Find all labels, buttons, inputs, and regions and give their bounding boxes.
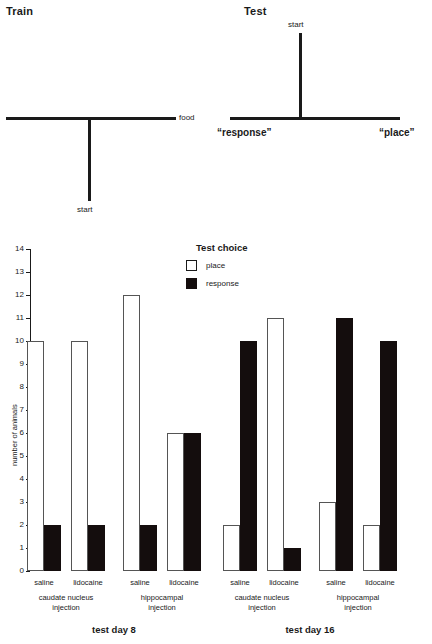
- y-axis-tick-label: 5: [4, 451, 24, 460]
- group-label-line1: caudate nucleus: [11, 593, 121, 603]
- y-axis-tick: [26, 295, 30, 296]
- bar-place: [167, 433, 184, 571]
- y-axis-tick-label: 11: [4, 313, 24, 322]
- bar-response: [140, 525, 157, 571]
- y-axis-tick-label: 1: [4, 543, 24, 552]
- group-label: hippocampalinjection: [107, 593, 217, 613]
- group-label: hippocampalinjection: [303, 593, 413, 613]
- bar-response: [240, 341, 257, 571]
- legend-item-response: response: [186, 278, 248, 289]
- bar-place: [27, 341, 44, 571]
- legend-label-response: response: [206, 279, 239, 288]
- category-label: lidocaine: [58, 578, 118, 587]
- legend-title: Test choice: [196, 242, 248, 253]
- y-axis-tick-label: 6: [4, 428, 24, 437]
- group-label: caudate nucleusinjection: [11, 593, 121, 613]
- bar-chart: number of animals 01234567891011121314 s…: [0, 236, 432, 644]
- day-label: test day 16: [250, 624, 370, 635]
- category-label: lidocaine: [254, 578, 314, 587]
- train-maze-horizontal-arm: [6, 117, 176, 120]
- legend: Test choice place response: [186, 242, 248, 289]
- bar-place: [223, 525, 240, 571]
- bar-response: [336, 318, 353, 571]
- y-axis-tick-label: 14: [4, 244, 24, 253]
- y-axis-tick-label: 9: [4, 359, 24, 368]
- bar-place: [319, 502, 336, 571]
- group-label-line2: injection: [107, 603, 217, 613]
- train-maze-diagram: Train food start: [0, 0, 216, 230]
- train-maze-start-label: start: [77, 205, 93, 214]
- group-label-line1: caudate nucleus: [207, 593, 317, 603]
- group-label-line2: injection: [207, 603, 317, 613]
- group-label-line1: hippocampal: [107, 593, 217, 603]
- group-label-line2: injection: [11, 603, 121, 613]
- bar-response: [88, 525, 105, 571]
- legend-swatch-response-icon: [186, 278, 197, 289]
- y-axis-tick: [26, 318, 30, 319]
- day-label: test day 8: [54, 624, 174, 635]
- group-label-line2: injection: [303, 603, 413, 613]
- bar-response: [380, 341, 397, 571]
- train-maze-title: Train: [6, 5, 33, 17]
- train-maze-food-label: food: [179, 113, 195, 122]
- bar-response: [44, 525, 61, 571]
- y-axis-tick-label: 4: [4, 474, 24, 483]
- y-axis-tick-label: 8: [4, 382, 24, 391]
- bar-response: [284, 548, 301, 571]
- y-axis-tick: [26, 272, 30, 273]
- group-label: caudate nucleusinjection: [207, 593, 317, 613]
- test-maze-stem: [299, 33, 302, 119]
- y-axis-tick-label: 3: [4, 497, 24, 506]
- train-maze-stem: [88, 117, 91, 201]
- y-axis-tick: [26, 249, 30, 250]
- group-label-line1: hippocampal: [303, 593, 413, 603]
- test-maze-response-label: “response”: [217, 127, 271, 138]
- test-maze-horizontal-arm: [230, 117, 400, 120]
- category-label: lidocaine: [350, 578, 410, 587]
- y-axis-tick-label: 7: [4, 405, 24, 414]
- test-maze-diagram: Test start “response” “place”: [216, 0, 432, 230]
- legend-label-place: place: [206, 261, 225, 270]
- bar-place: [267, 318, 284, 571]
- test-maze-title: Test: [244, 5, 267, 17]
- y-axis-tick-label: 10: [4, 336, 24, 345]
- bar-place: [71, 341, 88, 571]
- test-maze-start-label: start: [288, 20, 304, 29]
- y-axis-tick: [26, 571, 30, 572]
- category-label: lidocaine: [154, 578, 214, 587]
- bar-place: [123, 295, 140, 571]
- bar-response: [184, 433, 201, 571]
- legend-item-place: place: [186, 260, 248, 271]
- bar-place: [363, 525, 380, 571]
- legend-swatch-place-icon: [186, 260, 197, 271]
- y-axis-tick-label: 0: [4, 566, 24, 575]
- y-axis-tick-label: 12: [4, 290, 24, 299]
- y-axis-tick-label: 2: [4, 520, 24, 529]
- test-maze-place-label: “place”: [379, 127, 415, 138]
- y-axis-tick-label: 13: [4, 267, 24, 276]
